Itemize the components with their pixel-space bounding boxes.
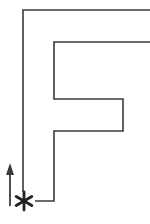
inner-wall <box>35 42 150 201</box>
outer-wall <box>23 10 150 192</box>
maze-diagram <box>0 0 150 224</box>
arrow-up-icon <box>6 163 14 206</box>
asterisk-start-icon <box>16 192 32 210</box>
